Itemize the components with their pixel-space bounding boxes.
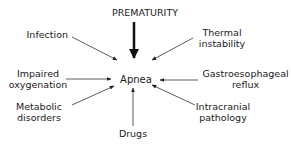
- thermal-instability-line2: instability: [196, 38, 248, 49]
- drugs-label: Drugs: [113, 128, 153, 139]
- thermal-instability-line1: Thermal: [196, 27, 248, 38]
- metabolic-disorders-arrow: [72, 86, 114, 105]
- impaired-oxygenation-line1: Impaired: [6, 68, 70, 79]
- metabolic-disorders-label: Metabolic disorders: [14, 101, 64, 123]
- intracranial-pathology-line2: pathology: [192, 112, 254, 123]
- apnea-causes-diagram: PREMATURITY Apnea Infection Impaired oxy…: [0, 0, 291, 147]
- intracranial-pathology-line1: Intracranial: [192, 101, 254, 112]
- impaired-oxygenation-label: Impaired oxygenation: [6, 68, 70, 90]
- apnea-label: Apnea: [116, 74, 156, 85]
- intracranial-pathology-arrow: [152, 85, 195, 105]
- gastroesophageal-reflux-line2: reflux: [200, 79, 291, 90]
- metabolic-disorders-line1: Metabolic: [14, 101, 64, 112]
- prematurity-label: PREMATURITY: [100, 7, 190, 18]
- gastroesophageal-reflux-line1: Gastroesophageal: [200, 68, 291, 79]
- metabolic-disorders-line2: disorders: [14, 112, 64, 123]
- infection-label: Infection: [16, 29, 68, 40]
- intracranial-pathology-label: Intracranial pathology: [192, 101, 254, 123]
- gastroesophageal-reflux-label: Gastroesophageal reflux: [200, 68, 291, 90]
- infection-arrow: [72, 37, 117, 60]
- impaired-oxygenation-line2: oxygenation: [6, 79, 70, 90]
- thermal-instability-arrow: [152, 38, 193, 60]
- thermal-instability-label: Thermal instability: [196, 27, 248, 49]
